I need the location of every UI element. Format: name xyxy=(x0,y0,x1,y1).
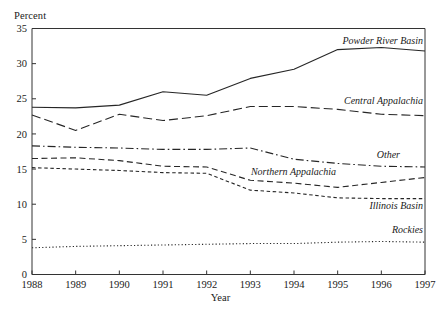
series-line-central-appalachia xyxy=(32,107,425,131)
series-label-rockies: Rockies xyxy=(391,224,423,235)
x-tick-label: 1996 xyxy=(371,279,392,290)
x-tick-label: 1995 xyxy=(327,279,348,290)
chart-figure: Percent 05101520253035198819891990199119… xyxy=(0,0,441,312)
plot-frame xyxy=(32,29,425,275)
y-tick-label: 10 xyxy=(17,199,28,210)
y-tick-label: 35 xyxy=(17,23,28,34)
series-line-rockies xyxy=(32,241,425,247)
x-tick-label: 1991 xyxy=(153,279,174,290)
line-chart-plot: 0510152025303519881989199019911992199319… xyxy=(0,0,441,312)
x-tick-label: 1990 xyxy=(109,279,130,290)
y-tick-label: 15 xyxy=(17,164,28,175)
series-line-northern-appalachia xyxy=(32,158,425,188)
x-tick-label: 1993 xyxy=(240,279,261,290)
series-line-illinois-basin xyxy=(32,168,425,199)
y-tick-label: 30 xyxy=(17,58,28,69)
series-label-illinois-basin: Illinois Basin xyxy=(368,200,423,211)
x-tick-label: 1997 xyxy=(415,279,436,290)
x-axis-caption: Year xyxy=(0,292,441,303)
y-tick-label: 20 xyxy=(17,129,28,140)
series-label-northern-appalachia: Northern Appalachia xyxy=(250,166,336,177)
y-tick-label: 5 xyxy=(22,234,27,245)
x-tick-label: 1988 xyxy=(22,279,43,290)
x-tick-label: 1989 xyxy=(65,279,86,290)
x-tick-label: 1992 xyxy=(196,279,217,290)
series-label-central-appalachia: Central Appalachia xyxy=(344,95,423,106)
series-line-other xyxy=(32,146,425,167)
y-tick-label: 25 xyxy=(17,93,28,104)
series-label-other: Other xyxy=(377,149,400,160)
series-label-powder-river-basin: Powder River Basin xyxy=(341,35,423,46)
x-tick-label: 1994 xyxy=(284,279,306,290)
